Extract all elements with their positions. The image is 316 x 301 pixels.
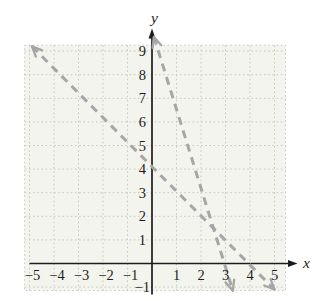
y-tick-label: 1 (139, 232, 146, 248)
y-tick-label: 8 (139, 67, 146, 83)
y-tick-label: 5 (139, 138, 146, 154)
x-axis-arrow-icon (288, 260, 298, 267)
x-tick-label: 5 (271, 267, 278, 283)
x-tick-label: 2 (197, 267, 204, 283)
y-tick-label: 4 (139, 161, 147, 177)
coordinate-plane: −5−4−3−2−112345−1123456789xy (0, 0, 316, 301)
y-tick-label: 3 (139, 185, 146, 201)
x-axis-label: x (302, 254, 310, 271)
x-tick-label: 4 (246, 267, 254, 283)
line-arrowhead-icon (233, 280, 234, 291)
x-tick-label: −5 (25, 267, 40, 283)
y-tick-label: 9 (139, 43, 146, 59)
x-tick-label: −3 (74, 267, 89, 283)
x-tick-label: 3 (222, 267, 229, 283)
y-tick-label: 6 (139, 114, 146, 130)
y-tick-label: −1 (135, 279, 150, 295)
x-tick-label: 1 (173, 267, 180, 283)
y-axis-label: y (149, 9, 158, 26)
y-tick-label: 7 (139, 90, 146, 106)
y-tick-label: 2 (139, 208, 146, 224)
graph-figure: −5−4−3−2−112345−1123456789xy (0, 0, 316, 301)
x-tick-label: −4 (49, 267, 65, 283)
x-tick-label: −2 (98, 267, 113, 283)
line-arrowhead-icon (153, 37, 154, 48)
